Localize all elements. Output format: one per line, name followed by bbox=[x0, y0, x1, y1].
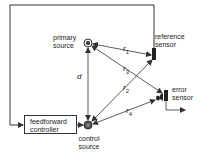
control-source-label-line1: control bbox=[78, 135, 99, 142]
primary-source-label: primary source bbox=[53, 34, 76, 49]
diagram-canvas bbox=[0, 0, 204, 159]
primary-source-icon bbox=[84, 39, 92, 47]
controller-label-line2: controller bbox=[25, 126, 76, 134]
label-d: d bbox=[77, 72, 81, 81]
label-r3: r3 bbox=[123, 64, 129, 75]
error-sensor-label: error sensor bbox=[172, 86, 193, 101]
label-r4: r4 bbox=[126, 106, 132, 117]
label-r2: r2 bbox=[123, 83, 129, 94]
error-sensor-label-line1: error bbox=[172, 86, 187, 93]
primary-source-label-line2: source bbox=[53, 42, 74, 49]
reference-sensor-icon bbox=[152, 48, 156, 60]
distance-r1-arrow bbox=[93, 44, 151, 55]
label-r1: r1 bbox=[123, 44, 129, 55]
primary-source-label-line1: primary bbox=[53, 34, 76, 41]
feedforward-controller-block: feedforward controller bbox=[24, 115, 77, 134]
control-source-label: control source bbox=[76, 135, 102, 150]
reference-sensor-label: reference sensor bbox=[155, 33, 185, 48]
error-signal-output-arrow bbox=[166, 101, 185, 110]
reference-sensor-label-line1: reference bbox=[155, 33, 185, 40]
error-sensor-icon bbox=[156, 90, 168, 101]
error-sensor-label-line2: sensor bbox=[172, 94, 193, 101]
control-source-label-line2: source bbox=[78, 143, 99, 150]
control-source-icon bbox=[84, 121, 92, 129]
controller-label-line1: feedforward bbox=[25, 116, 76, 126]
reference-sensor-label-line2: sensor bbox=[155, 41, 176, 48]
distance-r4-arrow bbox=[93, 100, 155, 124]
reference-to-controller-wire bbox=[10, 5, 154, 125]
distance-r2-arrow bbox=[92, 60, 152, 121]
